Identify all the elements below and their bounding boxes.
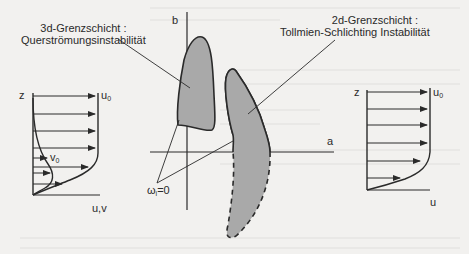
right-profile [367, 88, 430, 190]
right-u0-label: u0 [433, 86, 443, 102]
b-axis-label: b [172, 14, 178, 26]
leader-left [118, 39, 190, 88]
ts-instability-region [225, 69, 270, 237]
left-caption-title: 3d-Grenzschicht : [21, 22, 146, 34]
left-uv-axis-label: u,v [92, 202, 107, 214]
left-caption-subtitle: Querströmungsinstabilität [21, 34, 146, 46]
neutral-curve-label: ωi=0 [147, 184, 170, 200]
left-z-label: z [19, 89, 25, 101]
right-caption-subtitle: Tollmien-Schlichting Instabilität [280, 26, 430, 38]
leader-omega-2 [157, 141, 233, 183]
a-axis-label: a [327, 135, 333, 147]
leader-right [248, 40, 335, 114]
right-caption: 2d-Grenzschicht : Tollmien-Schlichting I… [280, 14, 430, 38]
right-u-axis-label: u [430, 196, 436, 208]
left-v0-label: v0 [50, 151, 59, 167]
right-caption-title: 2d-Grenzschicht : [280, 14, 430, 26]
left-u0-label: u0 [101, 89, 111, 105]
left-caption: 3d-Grenzschicht : Querströmungsinstabili… [21, 22, 146, 46]
left-profile [33, 93, 100, 195]
right-z-label: z [354, 86, 360, 98]
instability-diagram: 3d-Grenzschicht : Querströmungsinstabili… [0, 0, 469, 254]
